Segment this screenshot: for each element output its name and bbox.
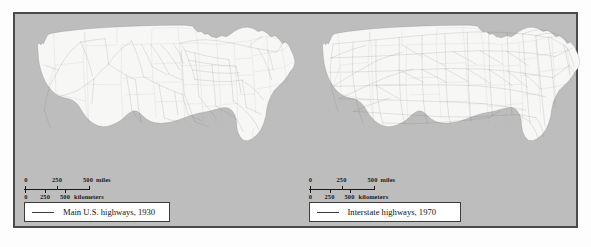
- scale-km-tick-0: 0: [309, 193, 312, 200]
- highway-line-icon: [317, 212, 339, 213]
- scale-km-tick-250: 250: [40, 193, 50, 200]
- figure-panel: 0 250 500 miles 0: [15, 14, 576, 226]
- scale-miles-unit: miles: [381, 176, 396, 183]
- map-panel-1970: 0 250 500 miles 0: [296, 14, 577, 226]
- scale-km-tick-250: 250: [325, 193, 335, 200]
- highway-line-icon: [32, 212, 54, 213]
- legend-label-1970: Interstate highways, 1970: [348, 207, 437, 217]
- legend-1970: Interstate highways, 1970: [309, 202, 461, 222]
- scale-bar-1970: 0 250 500 miles 0: [309, 176, 419, 202]
- scale-miles-tick-0: 0: [24, 176, 27, 183]
- scale-miles-labels: 0 250 500 miles: [309, 176, 419, 185]
- figure-container: 0 250 500 miles 0: [0, 0, 591, 247]
- scale-miles-unit: miles: [96, 176, 111, 183]
- scale-bar-1930: 0 250 500 miles 0: [24, 176, 134, 202]
- scale-axis: [24, 186, 134, 192]
- scale-km-labels: 0 250 500 kilometers: [24, 193, 134, 202]
- scale-km-tick-500: 500: [345, 193, 355, 200]
- scale-miles-tick-250: 250: [337, 176, 347, 183]
- us-outline-1930: [38, 25, 295, 140]
- map-panel-1930: 0 250 500 miles 0: [15, 14, 296, 226]
- scale-miles-tick-500: 500: [83, 176, 93, 183]
- scale-km-labels: 0 250 500 kilometers: [309, 193, 419, 202]
- figure-frame: 0 250 500 miles 0: [13, 12, 578, 228]
- scale-km-unit: kilometers: [74, 193, 104, 200]
- scale-km-unit: kilometers: [359, 193, 389, 200]
- scale-miles-labels: 0 250 500 miles: [24, 176, 134, 185]
- scale-km-tick-0: 0: [24, 193, 27, 200]
- scale-miles-tick-0: 0: [309, 176, 312, 183]
- scale-miles-tick-250: 250: [52, 176, 62, 183]
- legend-1930: Main U.S. highways, 1930: [24, 202, 170, 222]
- us-outline-1970: [322, 25, 579, 140]
- scale-km-tick-500: 500: [60, 193, 70, 200]
- scale-axis: [309, 186, 419, 192]
- scale-miles-tick-500: 500: [368, 176, 378, 183]
- legend-label-1930: Main U.S. highways, 1930: [63, 207, 155, 217]
